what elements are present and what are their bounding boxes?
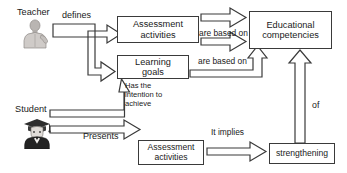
actor-label-student: Student <box>15 104 47 114</box>
node-label: Learning goals <box>133 57 173 78</box>
node-learning-goals[interactable]: Learning goals <box>117 55 189 79</box>
arrow-it-implies <box>207 142 266 161</box>
arrow-of <box>289 50 311 143</box>
edge-label-it-implies: It implies <box>211 128 244 138</box>
edge-label-has-intention-to-achieve: Has the intention to achieve <box>125 82 162 108</box>
student-graduate-person-icon <box>20 116 54 149</box>
teacher-person-icon <box>20 19 54 49</box>
node-label: strengthening <box>274 149 330 159</box>
edge-label-are-based-on-top: are based on <box>199 29 248 39</box>
diagram-canvas: Assessment activities Learning goals Edu… <box>0 0 347 173</box>
node-label: Assessment activities <box>131 19 185 40</box>
node-strengthening[interactable]: strengthening <box>269 143 335 164</box>
arrow-defines <box>53 24 121 81</box>
node-assessment-activities-bottom[interactable]: Assessment activities <box>138 140 204 165</box>
arrow-are-based-on-top <box>201 8 246 27</box>
edge-label-presents: Presents <box>83 131 119 141</box>
actor-label-teacher: Teacher <box>17 7 50 17</box>
edge-label-of: of <box>312 100 319 110</box>
arrow-has-intention <box>50 79 130 117</box>
node-assessment-activities-top[interactable]: Assessment activities <box>117 16 199 43</box>
edge-label-are-based-on-bottom: are based on <box>198 57 247 67</box>
node-educational-competencies[interactable]: Educational competencies <box>249 11 332 49</box>
node-label: Assessment activities <box>146 143 197 162</box>
node-label: Educational competencies <box>260 20 321 41</box>
edge-label-defines: defines <box>62 10 91 20</box>
